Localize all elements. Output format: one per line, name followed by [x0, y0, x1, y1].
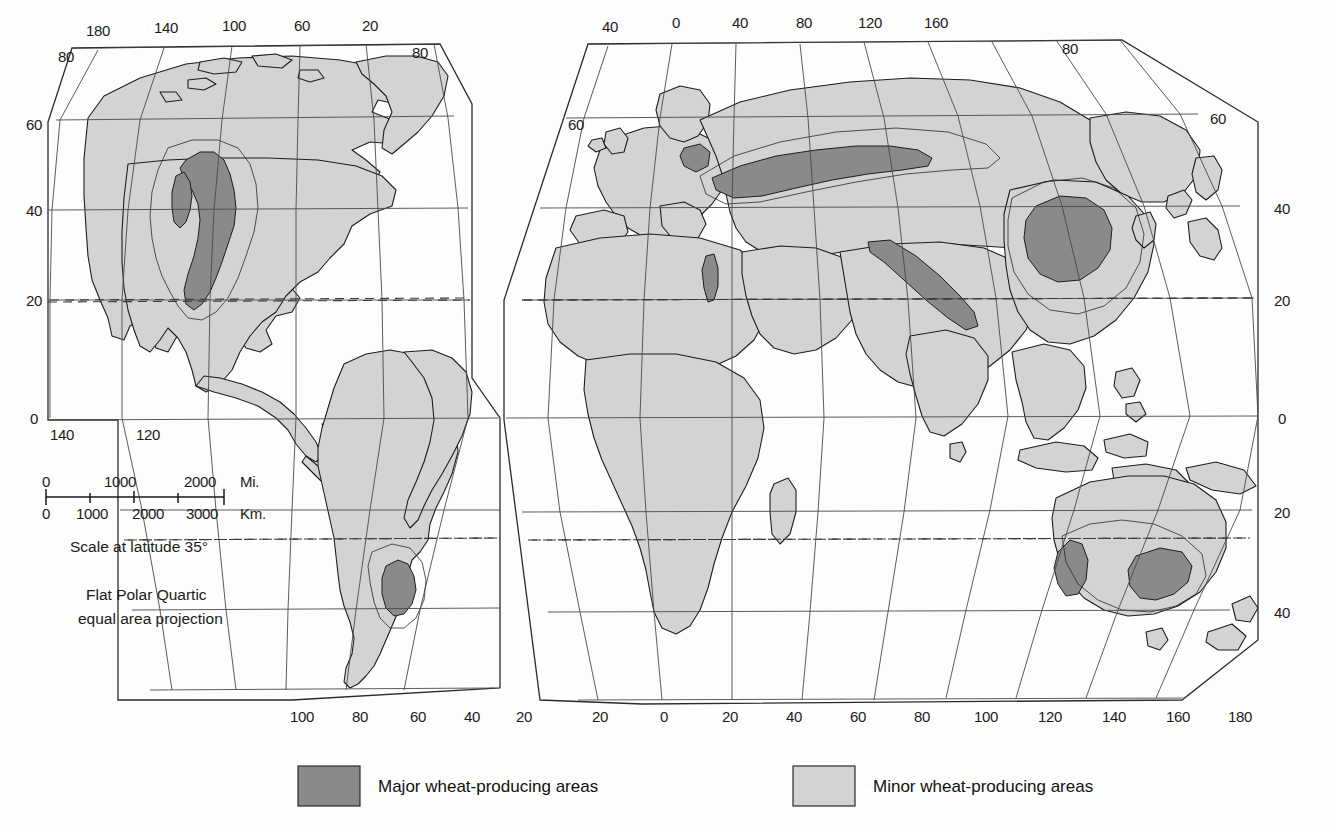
scale-km-2000: 2000	[132, 505, 164, 522]
right-top-lon-40e: 40	[732, 14, 748, 31]
legend-swatch-major	[298, 766, 360, 806]
legend-label-major: Major wheat-producing areas	[378, 777, 598, 796]
right-lat-40-n: 40	[1274, 200, 1290, 217]
north-africa-minor-area	[544, 234, 770, 374]
right-lat-40-s: 40	[1274, 604, 1290, 621]
right-bot-lon-120: 120	[1038, 708, 1062, 725]
right-bot-lon-80: 80	[914, 708, 930, 725]
right-lat-20-n: 20	[1274, 292, 1290, 309]
left-top-lon-100: 100	[222, 17, 246, 34]
scale-mi-2000: 2000	[184, 473, 216, 490]
scale-unit-mi: Mi.	[240, 473, 259, 490]
left-bot-lon-20: 20	[516, 708, 532, 725]
left-top-lat-80-west: 80	[58, 48, 74, 65]
right-bot-lon-100: 100	[974, 708, 998, 725]
right-bot-lon-20e: 20	[722, 708, 738, 725]
legend-label-minor: Minor wheat-producing areas	[873, 777, 1093, 796]
right-lat-0: 0	[1278, 410, 1286, 427]
right-top-lat-80: 80	[1062, 40, 1078, 57]
projection-note-line2: equal area projection	[78, 610, 223, 627]
left-eq-lon-140: 140	[50, 426, 74, 443]
right-top-lon-120: 120	[858, 14, 882, 31]
right-bot-lon-40: 40	[786, 708, 802, 725]
right-lat-20-s: 20	[1274, 504, 1290, 521]
left-bot-lon-60: 60	[410, 708, 426, 725]
left-lat-60: 60	[26, 116, 42, 133]
right-lat-60-east: 60	[1210, 110, 1226, 127]
projection-note-line1: Flat Polar Quartic	[86, 586, 207, 603]
left-bot-lon-100: 100	[290, 708, 314, 725]
left-top-lat-80-east: 80	[412, 44, 428, 61]
legend-swatch-minor	[793, 766, 855, 806]
left-lat-0: 0	[30, 410, 38, 427]
scale-mi-1000: 1000	[104, 473, 136, 490]
left-top-lon-140: 140	[154, 19, 178, 36]
left-lat-40: 40	[26, 202, 42, 219]
world-map: 180 140 100 60 20 80 80 60 40 20 0 140 1…	[0, 0, 1333, 831]
right-bot-lon-0: 0	[660, 708, 668, 725]
left-top-lon-20: 20	[362, 17, 378, 34]
scale-km-0: 0	[42, 505, 50, 522]
scale-unit-km: Km.	[240, 505, 266, 522]
scale-km-3000: 3000	[186, 505, 218, 522]
right-top-lon-80: 80	[796, 14, 812, 31]
right-bot-lon-160: 160	[1166, 708, 1190, 725]
left-top-lon-60: 60	[294, 17, 310, 34]
left-bot-lon-40: 40	[464, 708, 480, 725]
right-bot-lon-60: 60	[850, 708, 866, 725]
left-lat-20: 20	[26, 292, 42, 309]
left-bot-lon-80: 80	[352, 708, 368, 725]
right-bot-lon-180: 180	[1228, 708, 1252, 725]
right-bot-lon-140: 140	[1102, 708, 1126, 725]
left-eq-lon-120: 120	[136, 426, 160, 443]
right-top-lon-0: 0	[672, 14, 680, 31]
right-lat-60-west: 60	[568, 116, 584, 133]
right-bot-lon-20w: 20	[592, 708, 608, 725]
right-top-lon-160: 160	[924, 14, 948, 31]
scale-km-1000: 1000	[76, 505, 108, 522]
scale-latitude-note: Scale at latitude 35°	[70, 538, 208, 555]
right-top-lon-40w: 40	[602, 18, 618, 35]
scale-mi-0: 0	[42, 473, 50, 490]
left-top-lon-180: 180	[86, 22, 110, 39]
